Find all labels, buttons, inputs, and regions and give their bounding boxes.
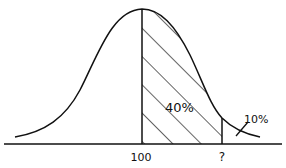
hatched-region-40 [142,0,222,144]
bell-curve [15,9,260,137]
normal-curve-diagram: 100 ? 40% 10% [0,0,286,168]
tail-region-label: 10% [244,113,268,126]
shaded-region-label: 40% [165,100,194,115]
unknown-label: ? [219,150,225,164]
mean-label: 100 [131,151,152,164]
